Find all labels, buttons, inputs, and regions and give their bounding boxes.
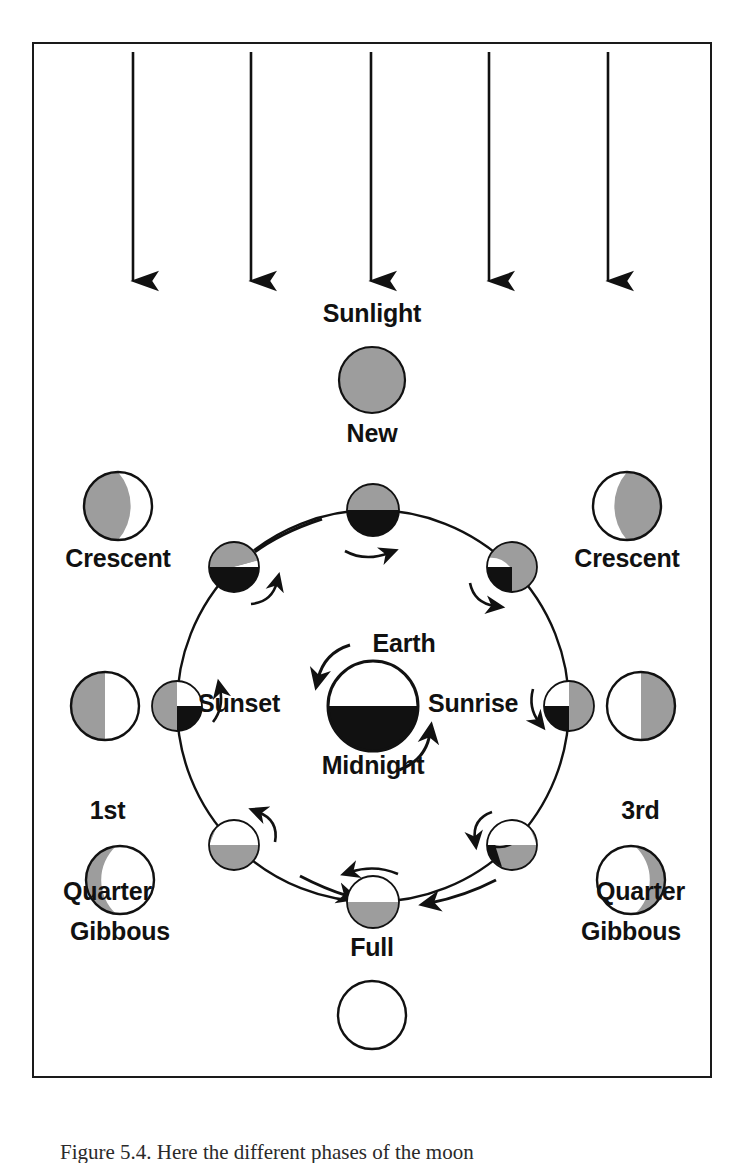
orbit-arrow-bottom-left	[300, 876, 348, 896]
rotation-arrow-third-quarter	[531, 689, 539, 722]
phase-label-new: New	[347, 420, 398, 447]
phase-label-gibbous-left: Gibbous	[70, 918, 170, 945]
sunrise-label: Sunrise	[428, 690, 518, 717]
orbit-moon-waxing-crescent	[209, 541, 259, 592]
rotation-arrow-full	[350, 868, 398, 874]
moon-phases-diagram	[0, 0, 745, 1165]
sunlight-label: Sunlight	[323, 300, 421, 327]
phase-label-third-quarter-line2: Quarter	[578, 878, 703, 905]
appearance-moon-first-quarter	[71, 672, 139, 740]
sunlight-arrows-group	[133, 52, 608, 281]
orbit-moon-first-quarter	[152, 681, 202, 731]
rotation-arrow-waxing-gibbous	[258, 812, 276, 842]
orbit-moon-waning-gibbous	[487, 820, 537, 870]
phase-label-first-quarter-line1: 1st	[45, 797, 170, 824]
phase-label-first-quarter-line2: Quarter	[45, 878, 170, 905]
earth-label: Earth	[373, 630, 436, 657]
appearance-moon-new	[339, 347, 405, 413]
orbit-moon-new	[347, 484, 399, 536]
appearance-moon-crescent-left	[84, 472, 152, 540]
figure-caption: Figure 5.4. Here the different phases of…	[60, 1140, 690, 1163]
sunset-label: Sunset	[198, 690, 280, 717]
orbit-moon-full	[347, 876, 399, 928]
appearance-moon-third-quarter	[607, 672, 675, 740]
earth-globe	[328, 661, 418, 751]
midnight-label: Midnight	[322, 752, 425, 779]
phase-label-gibbous-right: Gibbous	[581, 918, 681, 945]
figure-page: Sunlight New Crescent Crescent 1st Quart…	[0, 0, 745, 1165]
phase-label-full: Full	[350, 934, 394, 961]
orbit-moon-waxing-gibbous	[209, 820, 259, 870]
orbit-moon-waning-crescent	[487, 542, 537, 592]
phase-label-crescent-left: Crescent	[65, 545, 170, 572]
orbit-moon-third-quarter	[544, 681, 594, 731]
phase-label-crescent-right: Crescent	[574, 545, 679, 572]
appearance-moon-crescent-right	[593, 472, 661, 540]
rotation-arrow-waning-crescent	[470, 583, 495, 606]
phase-label-third-quarter-line1: 3rd	[578, 797, 703, 824]
appearance-moon-full	[338, 981, 406, 1049]
rotation-arrow-new	[345, 551, 389, 557]
rotation-arrow-waxing-crescent	[251, 582, 277, 604]
